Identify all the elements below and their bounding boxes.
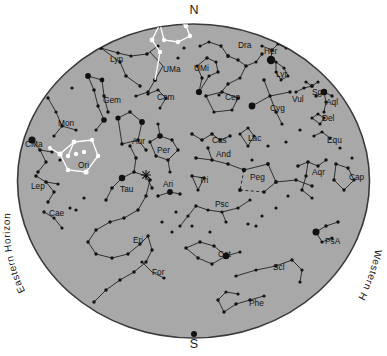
constellation-label-psc: Psc [215,199,229,209]
constellation-label-ori: Ori [78,160,89,170]
constellation-label-cet: Cet [218,249,232,259]
constellation-label-uma: UMa [163,64,181,74]
constellation-label-per: Per [157,145,170,155]
constellation-label-for: For [152,267,165,277]
eastern-horizon-label: Eastern Horizon [1,212,27,295]
constellation-label-gem: Gem [103,95,121,105]
constellation-label-lep: Lep [31,181,45,191]
constellation-label-cep: Cep [225,92,241,102]
constellation-label-dra: Dra [238,40,252,50]
constellation-label-tri: Tri [199,175,209,185]
constellation-label-phe: Phe [249,298,264,308]
constellation-label-lyr: Lyr [276,69,287,79]
pleiades-cluster-icon [141,170,151,180]
constellation-label-and: And [216,149,231,159]
constellation-label-lyn: Lyn [110,54,123,64]
constellation-label-cma: CMa [25,139,43,149]
constellation-label-tau: Tau [120,184,134,194]
cardinal-point-n: N [189,3,198,17]
constellation-label-lac: Lac [248,133,261,143]
constellation-label-aur: Aur [132,136,145,146]
constellation-label-mon: Mon [58,118,75,128]
constellation-label-aqr: Aqr [312,167,325,177]
constellation-label-equ: Equ [327,135,342,145]
constellation-label-cae: Cae [49,208,65,218]
star-chart-container: LynUMaUMiDraHerLyrCepCygVulSgeAqlDelEquC… [0,0,387,356]
constellation-label-umi: UMi [194,63,209,73]
sky-map-svg: LynUMaUMiDraHerLyrCepCygVulSgeAqlDelEquC… [0,0,387,356]
constellation-label-del: Del [322,113,335,123]
constellation-label-eri: Eri [133,235,143,245]
constellation-label-psa: PsA [325,236,341,246]
constellation-label-ari: Ari [163,179,173,189]
constellation-label-cas: Cas [212,135,227,145]
constellation-label-peg: Peg [250,172,265,182]
constellation-label-vul: Vul [292,94,304,104]
constellation-label-scl: Scl [273,262,285,272]
constellation-label-cam: Cam [157,92,175,102]
constellation-label-aql: Aql [326,97,338,107]
constellation-label-cyg: Cyg [270,103,285,113]
constellation-label-cap: Cap [349,172,365,182]
constellation-label-sge: Sge [312,87,327,97]
constellation-label-her: Her [264,46,278,56]
cardinal-point-s: S [190,337,198,351]
